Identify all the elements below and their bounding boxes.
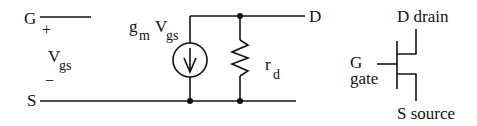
source-terminal-label: S [27, 91, 36, 110]
drain-terminal-label: D [309, 7, 321, 26]
mosfet-gate-word: gate [350, 69, 378, 88]
gm-label-main: g [129, 17, 138, 36]
junction-dot [237, 98, 243, 104]
gate-terminal-label: G [24, 9, 36, 28]
mosfet-source-label: S source [397, 104, 455, 123]
circuit-diagram: G + V gs − S g m V gs D r d D drain G ga… [0, 0, 477, 126]
mosfet-drain-label: D drain [397, 7, 449, 26]
junction-dot [187, 98, 193, 104]
rd-label-sub: d [273, 67, 280, 82]
vgs-label-sub: gs [59, 58, 71, 73]
minus-sign: − [45, 72, 54, 89]
mosfet-icon [377, 29, 416, 101]
gm-vgs-label-sub: gs [166, 28, 178, 43]
plus-sign: + [42, 21, 51, 38]
rd-label-main: r [265, 55, 271, 74]
resistor-icon [232, 16, 248, 101]
junction-dot [237, 13, 243, 19]
gm-label-sub: m [139, 28, 150, 43]
